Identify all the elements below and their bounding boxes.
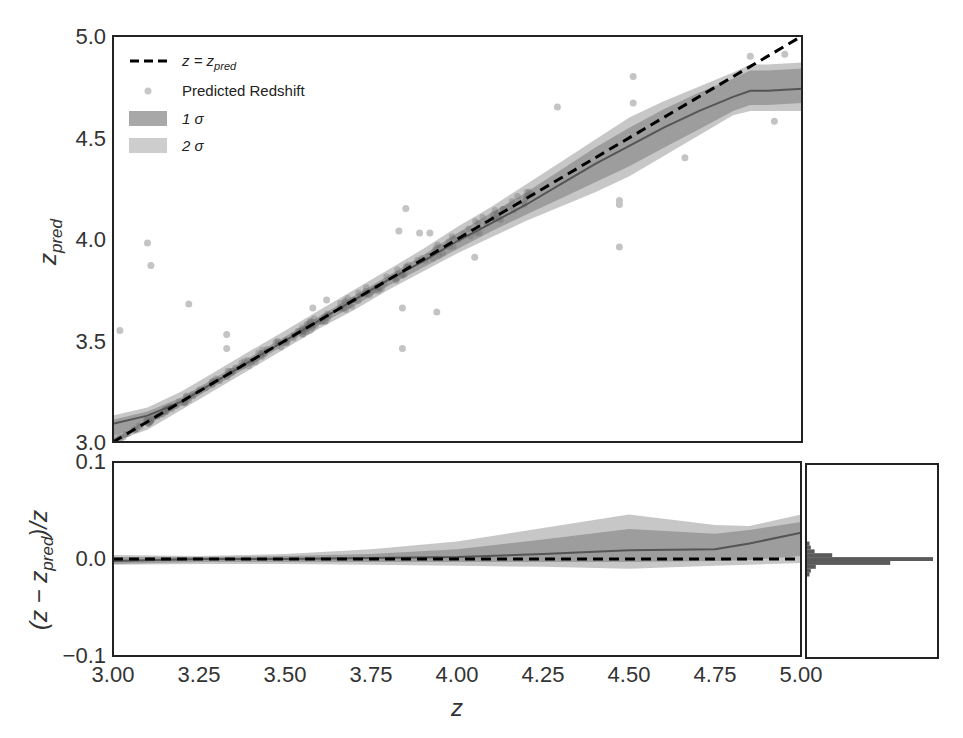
dense-point [466,226,472,232]
dense-point [479,214,485,220]
x-tick-label: 5.00 [780,662,823,687]
predicted-redshift-point [747,53,754,60]
histogram-bar [807,561,890,565]
predicted-redshift-point [309,305,316,312]
main-panel: 3.03.54.04.55.0 zpred z = zpred Predicte… [34,24,802,455]
dense-point [514,193,520,199]
x-tick-label: 3.25 [178,662,221,687]
predicted-redshift-point [116,327,123,334]
residual-y-axis-label: (z − zpred)/z [25,510,57,630]
main-y-tick-label: 5.0 [75,24,106,49]
predicted-redshift-point [771,118,778,125]
histogram-bar [807,546,811,550]
predicted-redshift-point [144,240,151,247]
predicted-redshift-point [554,104,561,111]
dense-point [349,303,355,309]
predicted-redshift-point [395,227,402,234]
dense-point [509,198,515,204]
legend-identity-label: z = zpred [181,52,237,72]
residual-sigma-bands [113,514,801,568]
legend-points-label: Predicted Redshift [182,82,305,99]
predicted-redshift-point [630,100,637,107]
predicted-redshift-point [399,305,406,312]
main-y-axis-label: zpred [34,218,66,266]
sigma-bands [110,62,802,445]
residual-y-tick-label: 0.1 [75,449,106,474]
legend-1sigma-swatch [129,111,167,126]
histogram-bar [807,569,811,573]
main-y-ticks: 3.03.54.04.55.0 [75,24,106,455]
x-ticks: 3.003.253.503.754.004.254.504.755.00 [92,662,823,687]
figure: 3.03.54.04.55.0 zpred z = zpred Predicte… [0,0,963,738]
legend-1sigma-label: 1 σ [182,110,205,127]
histogram-bar [807,549,815,553]
predicted-redshift-point [223,331,230,338]
predicted-redshift-point [147,262,154,269]
legend-2sigma-label: 2 σ [181,137,205,154]
residual-y-tick-label: 0.0 [75,546,106,571]
histogram-bars [807,542,933,577]
legend-point-swatch [145,88,152,95]
predicted-redshift-point [616,197,623,204]
dense-point [343,307,349,313]
predicted-redshift-point [402,205,409,212]
predicted-redshift-point [399,345,406,352]
predicted-redshift-point [781,51,788,58]
predicted-redshift-point [323,296,330,303]
histogram-bar [807,553,832,557]
predicted-redshift-point [681,154,688,161]
predicted-redshift-point [630,73,637,80]
histogram-bar [807,557,933,561]
main-y-tick-label: 4.0 [75,227,106,252]
x-tick-label: 4.50 [608,662,651,687]
predicted-redshift-point [616,244,623,251]
x-tick-label: 3.50 [264,662,307,687]
residual-y-ticks: −0.10.00.1 [63,449,106,668]
residual-panel: −0.10.00.1 3.003.253.503.754.004.254.504… [25,449,822,721]
predicted-redshift-point [426,229,433,236]
predicted-redshift-point [223,345,230,352]
histogram-bar [807,573,810,577]
main-y-tick-label: 4.5 [75,126,106,151]
x-tick-label: 4.25 [522,662,565,687]
x-tick-label: 4.75 [694,662,737,687]
x-axis-label: z [450,694,463,721]
legend-2sigma-swatch [129,138,167,153]
dense-point [434,242,440,248]
dense-point [337,300,343,306]
main-y-tick-label: 3.5 [75,329,106,354]
histogram-bar [807,542,810,546]
predicted-redshift-point [185,301,192,308]
x-tick-label: 3.75 [350,662,393,687]
legend: z = zpred Predicted Redshift 1 σ 2 σ [129,52,305,154]
histogram-bar [807,565,816,569]
x-tick-label: 4.00 [436,662,479,687]
predicted-redshift-point [433,309,440,316]
histogram-panel [806,464,938,658]
predicted-redshift-point [416,229,423,236]
x-tick-label: 3.00 [92,662,135,687]
predicted-redshift-point [471,254,478,261]
